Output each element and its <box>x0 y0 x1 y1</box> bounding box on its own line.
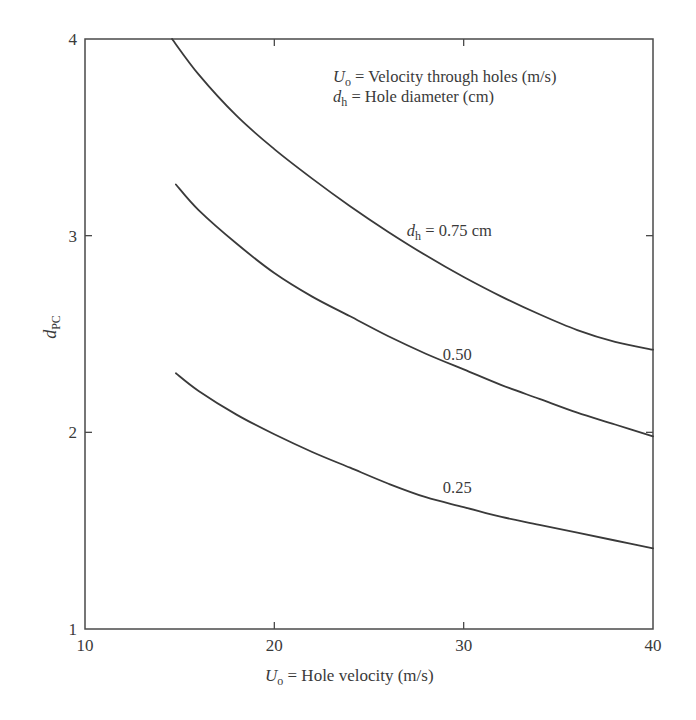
axis-tick-labels: 102030401234 <box>69 30 662 655</box>
y-tick-label: 2 <box>69 423 78 442</box>
x-tick-label: 20 <box>266 636 283 655</box>
y-axis-title: dPC <box>40 315 63 339</box>
annotation-block: Uo = Velocity through holes (m/s) dh = H… <box>333 67 557 109</box>
x-tick-label: 40 <box>645 636 662 655</box>
x-axis-title: Uo = Hole velocity (m/s) <box>265 666 434 688</box>
axis-ticks <box>85 39 653 629</box>
curve-label-2: 0.25 <box>443 478 472 497</box>
chart-canvas: 102030401234 dh = 0.75 cm0.500.25 Uo = V… <box>0 0 696 720</box>
annotation-line-2: dh = Hole diameter (cm) <box>333 87 494 109</box>
data-curves <box>172 39 653 548</box>
plot-frame <box>85 39 653 629</box>
curve-series-2 <box>176 373 653 548</box>
curve-labels: dh = 0.75 cm0.500.25 <box>407 221 492 498</box>
y-tick-label: 4 <box>69 30 78 49</box>
curve-label-1: 0.50 <box>443 345 472 364</box>
annotation-text: = Hole diameter (cm) <box>347 87 494 106</box>
x-tick-label: 30 <box>455 636 472 655</box>
annotation-text: = Velocity through holes (m/s) <box>351 67 557 86</box>
plot-border <box>85 39 653 629</box>
y-tick-label: 3 <box>69 227 78 246</box>
y-tick-label: 1 <box>69 620 78 639</box>
curve-label-0: dh = 0.75 cm <box>407 221 492 243</box>
annotation-line-1: Uo = Velocity through holes (m/s) <box>333 67 557 89</box>
x-axis-text: = Hole velocity (m/s) <box>283 666 433 685</box>
x-tick-label: 10 <box>77 636 94 655</box>
y-axis-subscript: PC <box>49 315 63 330</box>
